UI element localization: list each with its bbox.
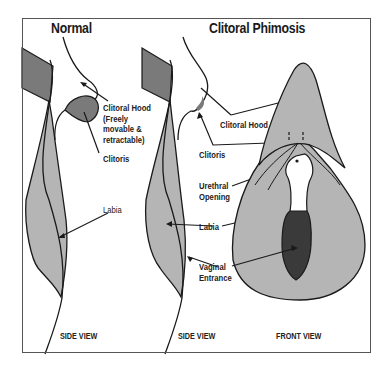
title-normal: Normal bbox=[51, 20, 92, 36]
label-clitoris-normal: Clitoris bbox=[103, 154, 129, 165]
title-phimosis: Clitoral Phimosis bbox=[209, 20, 305, 36]
label-clitoral-hood: Clitoral Hood bbox=[220, 120, 268, 131]
label-labia: Labia bbox=[199, 222, 219, 233]
view-label-side-phimosis: SIDE VIEW bbox=[178, 331, 215, 341]
label-clitoral-hood-normal: Clitoral Hood (Freely movable & retracta… bbox=[103, 103, 151, 145]
label-vaginal-entrance: Vaginal Entrance bbox=[199, 262, 232, 283]
diagram-frame bbox=[22, 18, 371, 353]
view-label-front: FRONT VIEW bbox=[276, 331, 321, 341]
label-clitoris: Clitoris bbox=[199, 150, 225, 161]
label-labia-normal: Labia bbox=[103, 205, 122, 216]
label-urethral-opening: Urethral Opening bbox=[199, 181, 230, 202]
view-label-side-normal: SIDE VIEW bbox=[60, 331, 97, 341]
